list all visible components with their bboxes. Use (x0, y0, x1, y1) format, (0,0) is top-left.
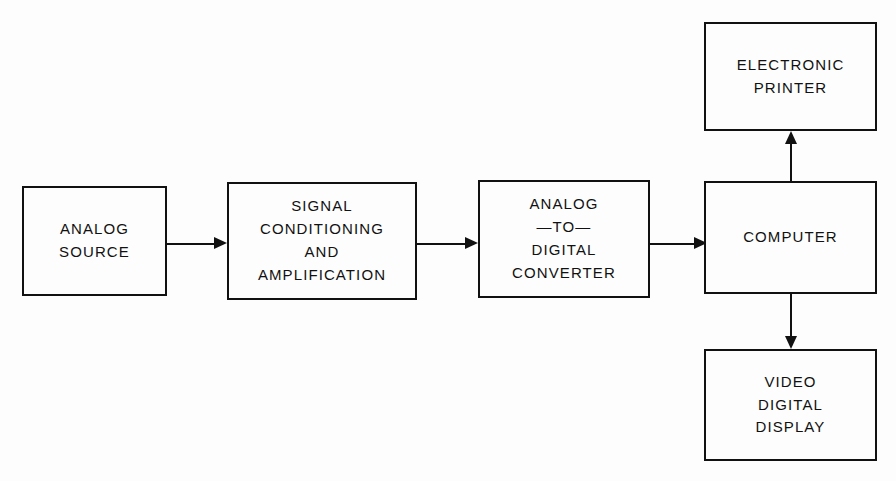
block-adc-line-1: ANALOG (529, 193, 598, 216)
block-computer: COMPUTER (704, 181, 877, 294)
connector-source-to-conditioning (167, 243, 215, 245)
block-adc-line-2: —TO— (537, 216, 592, 239)
arrowhead-computer-to-printer-icon (785, 131, 797, 144)
block-video-digital-display-line-1: VIDEO (764, 371, 816, 394)
block-electronic-printer: ELECTRONIC PRINTER (704, 22, 877, 131)
block-electronic-printer-line-1: ELECTRONIC (737, 54, 845, 77)
block-signal-conditioning-line-2: CONDITIONING (260, 218, 384, 241)
block-analog-source: ANALOG SOURCE (22, 186, 167, 296)
block-video-digital-display: VIDEO DIGITAL DISPLAY (704, 349, 877, 461)
block-analog-to-digital-converter: ANALOG —TO— DIGITAL CONVERTER (478, 180, 650, 298)
block-analog-source-line-2: SOURCE (59, 241, 130, 264)
block-video-digital-display-line-2: DIGITAL (758, 394, 823, 417)
block-computer-line-1: COMPUTER (743, 226, 838, 249)
block-signal-conditioning: SIGNAL CONDITIONING AND AMPLIFICATION (227, 182, 417, 300)
connector-computer-to-printer (790, 144, 792, 182)
block-video-digital-display-line-3: DISPLAY (756, 416, 826, 439)
block-diagram-canvas: ANALOG SOURCE SIGNAL CONDITIONING AND AM… (0, 0, 896, 481)
arrowhead-computer-to-display-icon (785, 336, 797, 349)
connector-conditioning-to-adc (417, 243, 466, 245)
block-adc-line-3: DIGITAL (532, 239, 597, 262)
block-signal-conditioning-line-1: SIGNAL (291, 195, 353, 218)
block-signal-conditioning-line-4: AMPLIFICATION (258, 264, 386, 287)
arrowhead-source-to-conditioning-icon (214, 237, 227, 249)
arrowhead-conditioning-to-adc-icon (465, 237, 478, 249)
block-signal-conditioning-line-3: AND (305, 241, 340, 264)
block-analog-source-line-1: ANALOG (60, 218, 129, 241)
block-electronic-printer-line-2: PRINTER (754, 77, 828, 100)
block-adc-line-4: CONVERTER (512, 262, 616, 285)
connector-adc-to-computer (650, 243, 696, 245)
connector-computer-to-display (790, 294, 792, 336)
